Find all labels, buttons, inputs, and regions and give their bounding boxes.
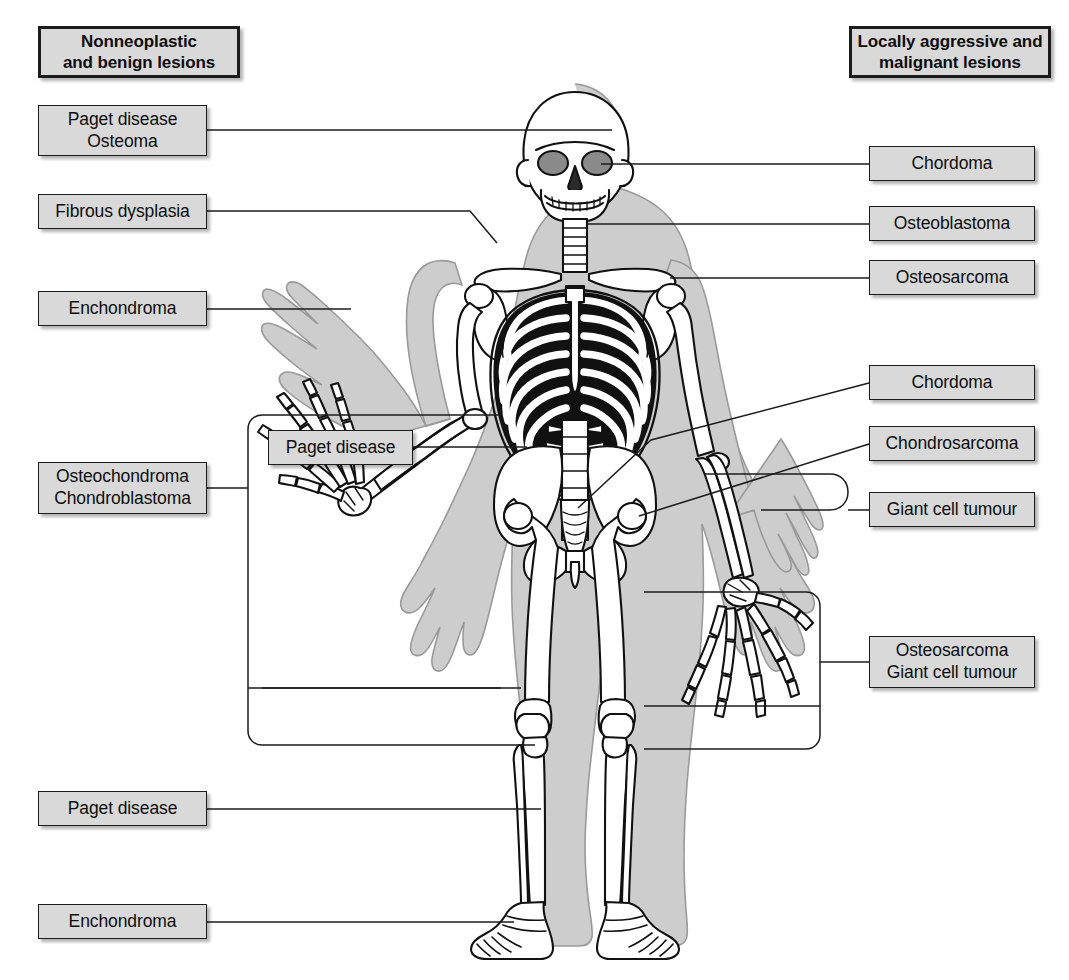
label-giant-cell-tumour[interactable]: Giant cell tumour [869, 492, 1035, 527]
label-osteosarcoma-gct-knee[interactable]: Osteosarcoma Giant cell tumour [869, 636, 1035, 688]
left-orbit [538, 151, 568, 175]
label-paget-tibia[interactable]: Paget disease [38, 791, 207, 826]
cervical-spine [563, 219, 587, 272]
label-chordoma-sacrum[interactable]: Chordoma [869, 365, 1035, 400]
label-paget-pelvis[interactable]: Paget disease [268, 430, 413, 465]
label-chordoma-skull[interactable]: Chordoma [869, 146, 1035, 181]
label-osteochondroma-chondroblastoma[interactable]: Osteochondroma Chondroblastoma [38, 462, 207, 514]
label-fibrous-dysplasia[interactable]: Fibrous dysplasia [38, 194, 207, 229]
header-right: Locally aggressive and malignant lesions [849, 26, 1051, 78]
diagram-canvas: Nonneoplastic and benign lesions Locally… [0, 0, 1069, 980]
right-orbit [582, 151, 612, 175]
label-osteoblastoma[interactable]: Osteoblastoma [869, 206, 1035, 241]
label-enchondroma-hand[interactable]: Enchondroma [38, 291, 207, 326]
label-osteosarcoma-humerus[interactable]: Osteosarcoma [869, 260, 1035, 295]
label-chondrosarcoma[interactable]: Chondrosarcoma [869, 426, 1035, 461]
label-paget-osteoma[interactable]: Paget disease Osteoma [38, 105, 207, 156]
label-enchondroma-foot[interactable]: Enchondroma [38, 904, 207, 939]
header-left: Nonneoplastic and benign lesions [38, 26, 240, 78]
